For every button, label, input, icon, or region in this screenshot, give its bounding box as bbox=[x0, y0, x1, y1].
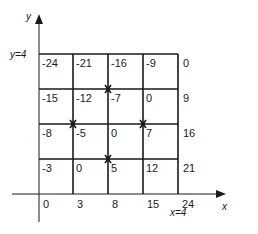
right-value: 9 bbox=[183, 92, 189, 104]
x-tick-label: 15 bbox=[147, 198, 159, 210]
right-value: 21 bbox=[183, 162, 195, 174]
x-axis-label: x bbox=[221, 201, 228, 212]
cell-value: -7 bbox=[111, 92, 121, 104]
y-axis-label: y bbox=[25, 11, 32, 22]
cell-value: -9 bbox=[146, 57, 156, 69]
cell-value: 0 bbox=[146, 92, 152, 104]
x-tick-label: 0 bbox=[43, 198, 49, 210]
cell-value: 7 bbox=[146, 127, 152, 139]
cell-value: 12 bbox=[146, 162, 158, 174]
x-tick-label: 24 bbox=[182, 198, 194, 210]
cell-value: -8 bbox=[42, 127, 52, 139]
x-axis-arrow-icon bbox=[216, 190, 226, 198]
cell-value: 0 bbox=[76, 162, 82, 174]
cell-values: -24 -21 -16 -9 -15 -12 -7 0 -8 -5 0 7 -3… bbox=[42, 57, 158, 174]
cell-value: 5 bbox=[111, 162, 117, 174]
x-tick-label: 3 bbox=[77, 198, 83, 210]
right-column-values: 0 9 16 21 bbox=[183, 57, 195, 174]
cell-value: -15 bbox=[42, 92, 58, 104]
grid-diagram: y x y=4 x=4 0 3 8 15 24 -24 -21 -16 -9 -… bbox=[0, 0, 258, 234]
cell-value: -16 bbox=[111, 57, 127, 69]
cell-value: -21 bbox=[76, 57, 92, 69]
right-value: 0 bbox=[183, 57, 189, 69]
cell-value: -12 bbox=[76, 92, 92, 104]
right-value: 16 bbox=[183, 127, 195, 139]
x-tick-label: 8 bbox=[112, 198, 118, 210]
cell-value: -3 bbox=[42, 162, 52, 174]
cell-value: -5 bbox=[76, 127, 86, 139]
y-marker-label: y=4 bbox=[9, 49, 27, 60]
cell-value: -24 bbox=[42, 57, 58, 69]
cell-value: 0 bbox=[111, 127, 117, 139]
y-axis-arrow-icon bbox=[35, 14, 43, 24]
